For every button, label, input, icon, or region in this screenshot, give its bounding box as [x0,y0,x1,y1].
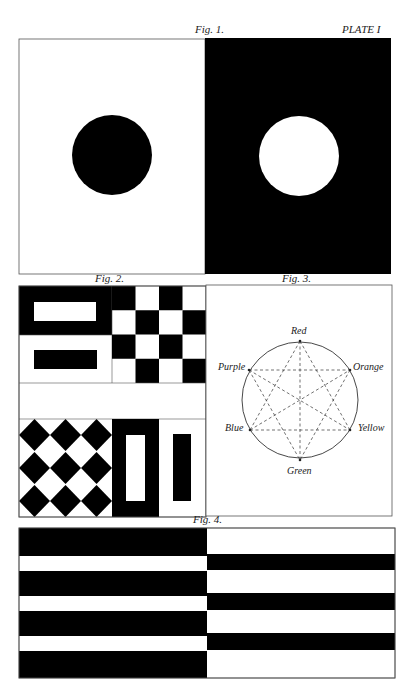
fig1-black-disc [72,115,152,195]
fig4-caption: Fig. 4. [192,513,222,525]
label-purple: Purple [217,361,246,372]
label-red: Red [290,325,308,336]
fig3-caption: Fig. 3. [281,272,311,284]
fig2-white-vertical-bar [126,435,145,501]
label-yellow: Yellow [358,422,385,433]
plate-title: PLATE I [341,23,382,35]
figure-4 [19,528,395,678]
fig4-right-bands [207,554,395,650]
fig2-black-bar [34,350,97,369]
label-green: Green [287,465,312,476]
fig2-caption: Fig. 2. [94,272,124,284]
fig2-black-vertical-bar [173,434,191,501]
figure-2 [19,286,206,517]
label-orange: Orange [353,361,384,372]
label-blue: Blue [225,422,244,433]
fig2-white-bar [34,302,96,321]
figure-3: Red Orange Yellow Green Blue Purple [206,285,392,516]
fig2-diamond-pattern [19,419,112,517]
figure-1 [19,38,391,274]
plate: Fig. 1. PLATE I Fig. 2. Fig. 3. [0,0,417,686]
fig1-white-disc [259,116,339,196]
fig1-caption: Fig. 1. [194,23,224,35]
